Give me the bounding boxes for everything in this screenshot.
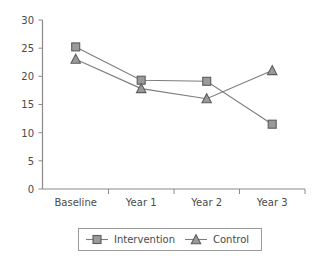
series-control — [71, 54, 277, 103]
data-point-intervention-baseline — [72, 43, 80, 51]
y-axis: 30 25 20 15 10 5 0 — [21, 15, 42, 195]
data-point-control-year-3 — [268, 66, 277, 75]
legend-label-control: Control — [213, 234, 249, 245]
y-tick-label-5: 5 — [28, 156, 34, 167]
chart-canvas: 30 25 20 15 10 5 0 Baseline Year 1 Year … — [0, 0, 319, 259]
data-point-intervention-year-3 — [268, 120, 276, 128]
y-tick-label-25: 25 — [21, 43, 34, 54]
y-tick-label-0: 0 — [28, 184, 34, 195]
legend-marker-square-icon — [93, 236, 101, 244]
series-intervention-line — [76, 47, 273, 124]
y-tick-label-10: 10 — [21, 128, 34, 139]
data-point-control-year-1 — [137, 84, 146, 93]
x-tick-label-year-3: Year 3 — [256, 197, 288, 208]
x-tick-label-year-1: Year 1 — [125, 197, 157, 208]
line-chart: 30 25 20 15 10 5 0 Baseline Year 1 Year … — [0, 0, 319, 259]
legend-label-intervention: Intervention — [114, 234, 175, 245]
x-tick-label-baseline: Baseline — [54, 197, 96, 208]
data-point-control-baseline — [71, 54, 80, 63]
legend-item-intervention[interactable]: Intervention — [86, 234, 175, 245]
y-tick-label-30: 30 — [21, 15, 34, 26]
x-axis: Baseline Year 1 Year 2 Year 3 — [43, 189, 306, 208]
y-tick-label-20: 20 — [21, 71, 34, 82]
data-point-intervention-year-2 — [203, 77, 211, 85]
series-control-line — [76, 59, 273, 99]
y-tick-label-15: 15 — [21, 99, 34, 110]
x-tick-label-year-2: Year 2 — [190, 197, 222, 208]
chart-legend: Intervention Control — [79, 229, 262, 251]
series-intervention — [72, 43, 277, 128]
